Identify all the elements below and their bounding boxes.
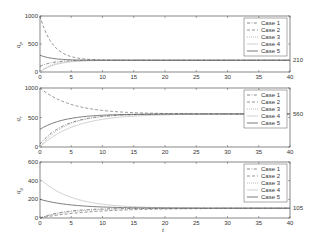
- legend-entry: Case 5: [261, 48, 281, 54]
- legend-entry: Case 4: [261, 41, 281, 47]
- legend: Case 1Case 2Case 3Case 4Case 5: [244, 164, 287, 202]
- legend-entry: Case 4: [261, 187, 281, 193]
- x-tick-label: 40: [287, 74, 294, 80]
- y-tick-label: 1000: [25, 85, 39, 91]
- y-tick-label: 400: [28, 178, 39, 184]
- x-tick-label: 20: [162, 149, 169, 155]
- y-tick-label: 500: [28, 41, 39, 47]
- x-tick-label: 40: [287, 149, 294, 155]
- x-tick-label: 30: [224, 220, 231, 226]
- x-tick-label: 20: [162, 74, 169, 80]
- x-tick-label: 0: [38, 220, 42, 226]
- legend-entry: Case 3: [261, 34, 281, 40]
- legend-entry: Case 2: [261, 27, 281, 33]
- legend-entry: Case 5: [261, 194, 281, 200]
- x-tick-label: 35: [255, 149, 262, 155]
- y-tick-label: 1000: [25, 13, 39, 19]
- legend-entry: Case 3: [261, 180, 281, 186]
- x-tick-label: 10: [99, 74, 106, 80]
- steady-state-label: 560: [293, 111, 304, 117]
- x-tick-label: 15: [130, 149, 137, 155]
- x-tick-label: 25: [193, 220, 200, 226]
- x-tick-label: 15: [130, 74, 137, 80]
- legend-entry: Case 2: [261, 173, 281, 179]
- legend-entry: Case 2: [261, 99, 281, 105]
- x-tick-label: 25: [193, 149, 200, 155]
- x-tick-label: 40: [287, 220, 294, 226]
- panel-3: 05101520253035400200400600qg105Case 1Cas…: [14, 159, 304, 226]
- steady-state-label: 210: [293, 57, 304, 63]
- x-tick-label: 30: [224, 74, 231, 80]
- legend: Case 1Case 2Case 3Case 4Case 5: [244, 18, 287, 56]
- legend: Case 1Case 2Case 3Case 4Case 5: [244, 90, 287, 128]
- y-tick-label: 500: [28, 115, 39, 121]
- x-tick-label: 10: [99, 220, 106, 226]
- x-tick-label: 15: [130, 220, 137, 226]
- multi-panel-line-chart: 051015202530354005001000qp210Case 1Case …: [0, 0, 317, 243]
- x-tick-label: 5: [70, 74, 74, 80]
- x-tick-label: 0: [38, 74, 42, 80]
- x-tick-label: 35: [255, 220, 262, 226]
- legend-entry: Case 1: [261, 20, 281, 26]
- legend-entry: Case 3: [261, 106, 281, 112]
- x-tick-label: 25: [193, 74, 200, 80]
- y-tick-label: 200: [28, 196, 39, 202]
- y-axis-label: qr: [14, 116, 23, 122]
- x-tick-label: 5: [70, 220, 74, 226]
- panel-2: 051015202530354005001000qr560Case 1Case …: [14, 85, 304, 155]
- legend-entry: Case 1: [261, 166, 281, 172]
- steady-state-label: 105: [293, 205, 304, 211]
- panel-1: 051015202530354005001000qp210Case 1Case …: [14, 13, 304, 80]
- legend-entry: Case 1: [261, 92, 281, 98]
- x-tick-label: 30: [224, 149, 231, 155]
- x-axis-label: t: [162, 226, 164, 234]
- x-tick-label: 0: [38, 149, 42, 155]
- legend-entry: Case 5: [261, 120, 281, 126]
- x-tick-label: 35: [255, 74, 262, 80]
- y-tick-label: 600: [28, 159, 39, 165]
- y-axis-label: qg: [14, 188, 23, 195]
- y-axis-label: qp: [14, 42, 23, 49]
- legend-entry: Case 4: [261, 113, 281, 119]
- x-tick-label: 10: [99, 149, 106, 155]
- x-tick-label: 5: [70, 149, 74, 155]
